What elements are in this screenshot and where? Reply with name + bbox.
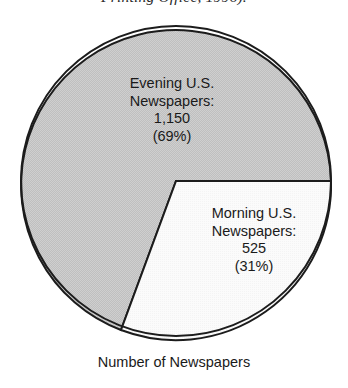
pie-chart: Evening U.S. Newspapers: 1,150 (69%) Mor… <box>0 9 348 352</box>
chart-caption: Number of Newspapers <box>0 354 348 370</box>
pie-chart-svg <box>0 9 348 352</box>
source-citation-line: Printing Office, 1996). <box>0 0 348 9</box>
source-citation-text: Printing Office, 1996). <box>101 0 247 6</box>
